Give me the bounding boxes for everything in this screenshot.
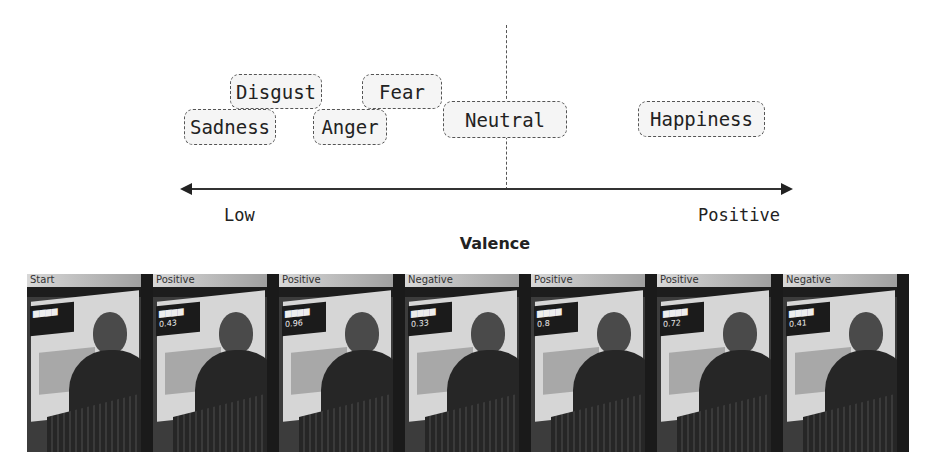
emotion-box-anger: Anger [313,109,387,145]
valence-axis-arrow [184,188,789,190]
frame-label: Negative [408,274,453,285]
emotion-label: Happiness [650,108,753,130]
emotion-label: Disgust [236,81,316,103]
frame-label: Positive [156,274,195,285]
video-frame: Negative ▆▆▆▆0.33 [405,274,531,452]
emotion-box-sadness: Sadness [184,109,276,145]
person-head [723,312,757,354]
monitor-edge [267,274,279,452]
monitor-edge [519,274,531,452]
person-head [471,312,505,354]
emotion-overlay-box: ▆▆▆▆0.41 [786,302,830,337]
emotion-label: Sadness [190,116,270,138]
emotion-box-happiness: Happiness [638,101,765,137]
video-frame: Start ▆▆▆▆ [27,274,153,452]
emotion-box-disgust: Disgust [230,74,322,109]
emotion-overlay-box: ▆▆▆▆ [30,302,74,337]
overlay-value: 0.43 [159,318,177,329]
overlay-value: 0.33 [411,318,429,329]
video-frame: Positive ▆▆▆▆0.43 [153,274,279,452]
axis-title: Valence [0,234,938,253]
overlay-value: 0.72 [663,318,681,329]
frame-label: Positive [660,274,699,285]
overlay-value: 0.96 [285,318,303,329]
person-head [345,312,379,354]
monitor-edge [771,274,783,452]
emotion-label: Neutral [465,109,545,131]
emotion-label: Fear [379,81,425,103]
emotion-overlay-box: ▆▆▆▆0.8 [534,302,578,337]
monitor-edge [141,274,153,452]
arrow-right-icon [781,183,793,195]
person-head [849,312,883,354]
emotion-overlay-box: ▆▆▆▆0.43 [156,302,200,337]
frame-label: Start [30,274,54,285]
video-frame: Positive ▆▆▆▆0.8 [531,274,657,452]
emotion-box-neutral: Neutral [443,101,567,138]
axis-high-label: Positive [698,205,780,225]
person-head [597,312,631,354]
monitor-edge [645,274,657,452]
arrow-left-icon [180,183,192,195]
person-head [219,312,253,354]
axis-low-label: Low [224,205,255,225]
overlay-value: 0.8 [537,319,550,329]
video-frame: Positive ▆▆▆▆0.72 [657,274,783,452]
video-frame: Negative ▆▆▆▆0.41 [783,274,909,452]
emotion-overlay-box: ▆▆▆▆0.72 [660,302,704,337]
overlay-value: 0.41 [789,318,807,329]
frame-label: Negative [786,274,831,285]
frame-label: Positive [282,274,321,285]
emotion-box-fear: Fear [362,74,442,109]
video-frame: Positive ▆▆▆▆0.96 [279,274,405,452]
video-frame-strip: Start ▆▆▆▆ Positive ▆▆▆▆0.43 Positive ▆▆… [27,274,909,452]
person-head [93,312,127,354]
emotion-label: Anger [321,116,378,138]
monitor-edge [897,274,909,452]
emotion-overlay-box: ▆▆▆▆0.96 [282,302,326,337]
monitor-edge [393,274,405,452]
emotion-overlay-box: ▆▆▆▆0.33 [408,302,452,337]
frame-label: Positive [534,274,573,285]
